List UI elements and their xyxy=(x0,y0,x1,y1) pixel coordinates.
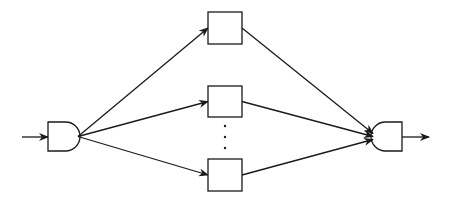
branch-n-in-arrow xyxy=(78,137,208,176)
branch-1-out-arrow xyxy=(242,28,373,134)
ellipsis-dot-icon xyxy=(224,147,226,149)
ellipsis-dot-icon xyxy=(224,136,226,138)
branch-n-box xyxy=(208,159,242,191)
branch-2-in-arrow xyxy=(78,102,208,137)
branch-1-box xyxy=(208,12,242,44)
parallel-network-diagram xyxy=(0,0,452,204)
split-gate-icon xyxy=(48,122,80,151)
branch-2-out-arrow xyxy=(242,102,373,137)
branch-2-box xyxy=(208,86,242,117)
branch-n-out-arrow xyxy=(242,140,373,176)
branch-1-in-arrow xyxy=(78,28,208,137)
ellipsis-dot-icon xyxy=(224,125,226,127)
merge-gate-icon xyxy=(371,122,402,151)
